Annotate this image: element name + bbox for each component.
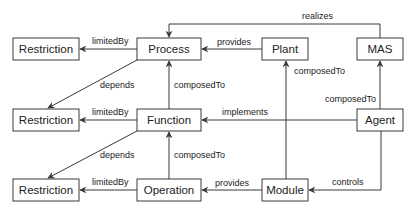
edge-label: composedTo xyxy=(174,80,225,90)
edge-function-limitedby-restriction2: limitedBy xyxy=(80,107,137,120)
node-label: Function xyxy=(147,114,191,126)
node-label: Agent xyxy=(365,114,396,126)
edge-function-depends-restriction3: depends xyxy=(48,131,137,178)
edge-label: provides xyxy=(215,178,250,188)
node-label: Plant xyxy=(272,43,299,55)
edge-label: realizes xyxy=(302,11,334,21)
ontology-diagram: limitedBy provides realizes depends comp… xyxy=(0,0,416,223)
edge-label: limitedBy xyxy=(92,107,129,117)
node-process: Process xyxy=(137,38,201,60)
node-label: Process xyxy=(148,43,190,55)
edge-process-limitedby-restriction1: limitedBy xyxy=(80,36,137,49)
node-label: MAS xyxy=(368,43,393,55)
node-label: Operation xyxy=(144,184,195,196)
edge-label: limitedBy xyxy=(92,177,129,187)
node-restriction-2: Restriction xyxy=(13,109,79,131)
edge-function-composedto-process: composedTo xyxy=(169,61,225,109)
edges: limitedBy provides realizes depends comp… xyxy=(48,11,381,190)
edge-label: composedTo xyxy=(294,66,345,76)
node-module: Module xyxy=(262,179,308,201)
edge-mas-realizes-process: realizes xyxy=(169,11,380,38)
node-restriction-3: Restriction xyxy=(13,179,79,201)
edge-label: composedTo xyxy=(174,150,225,160)
node-plant: Plant xyxy=(262,38,308,60)
node-mas: MAS xyxy=(357,38,403,60)
edge-label: depends xyxy=(100,150,135,160)
edge-label: implements xyxy=(222,107,269,117)
edge-agent-implements-function: implements xyxy=(202,107,357,120)
node-operation: Operation xyxy=(137,179,201,201)
node-label: Restriction xyxy=(19,184,73,196)
node-label: Restriction xyxy=(19,43,73,55)
edge-label: depends xyxy=(100,80,135,90)
node-label: Module xyxy=(266,184,304,196)
edge-module-provides-operation: provides xyxy=(202,178,262,190)
edge-plant-provides-process: provides xyxy=(202,37,262,49)
edge-operation-composedto-function: composedTo xyxy=(169,132,225,179)
edge-process-depends-restriction2: depends xyxy=(48,60,137,108)
edge-label: provides xyxy=(217,37,252,47)
edge-label: composedTo xyxy=(325,94,376,104)
edge-operation-limitedby-restriction3: limitedBy xyxy=(80,177,137,190)
edge-agent-controls-module: controls xyxy=(309,131,381,190)
edge-label: controls xyxy=(332,177,364,187)
node-label: Restriction xyxy=(19,114,73,126)
node-function: Function xyxy=(137,109,201,131)
node-agent: Agent xyxy=(357,109,403,131)
edge-label: limitedBy xyxy=(92,36,129,46)
node-restriction-1: Restriction xyxy=(13,38,79,60)
